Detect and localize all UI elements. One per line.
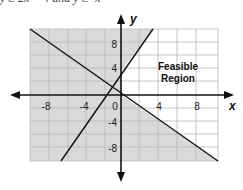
x-tick: 0	[112, 101, 118, 112]
feasible-region-label-line2: Region	[161, 73, 195, 84]
graph: y x -8 -4 0 4 8 8 4 -4 -8 Feasible Regio…	[0, 0, 243, 190]
y-axis-down-arrow-icon	[117, 172, 125, 182]
x-tick: -4	[80, 101, 89, 112]
y-tick: -4	[108, 117, 117, 128]
x-axis-left-arrow-icon	[10, 91, 20, 99]
y-axis-up-arrow-icon	[117, 14, 125, 24]
x-axis-right-arrow-icon	[224, 91, 234, 99]
feasible-region-label-line1: Feasible	[158, 61, 198, 72]
y-tick: -8	[108, 143, 117, 154]
x-axis-label: x	[228, 99, 237, 113]
y-tick: 4	[111, 63, 117, 74]
x-tick: 8	[194, 101, 200, 112]
x-tick: -8	[42, 101, 51, 112]
x-tick: 4	[156, 101, 162, 112]
y-axis-label: y	[129, 12, 138, 26]
y-tick: 8	[111, 39, 117, 50]
